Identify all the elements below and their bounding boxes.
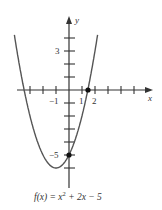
y-axis-arrow-icon — [66, 16, 72, 24]
x-tick-label-neg1: −1 — [49, 96, 59, 106]
y-axis-label: y — [74, 15, 79, 25]
x-axis-label: x — [147, 93, 152, 103]
y-tick-label-3: 3 — [55, 46, 60, 56]
function-caption: f(x) = x2 + 2x − 5 — [34, 190, 102, 203]
y-intercept-point — [66, 152, 71, 157]
x-intercept-point — [85, 87, 90, 92]
caption-rhs: + 2x − 5 — [66, 192, 102, 202]
y-tick-label-neg5: −5 — [49, 150, 59, 160]
caption-lhs: f(x) = x — [34, 192, 63, 203]
parabola-graph: x −1 1 2 y 3 −5 f(x) = x2 + 2x − 5 — [0, 0, 162, 210]
x-tick-label-1: 1 — [79, 96, 84, 106]
x-tick-label-2: 2 — [92, 96, 97, 106]
